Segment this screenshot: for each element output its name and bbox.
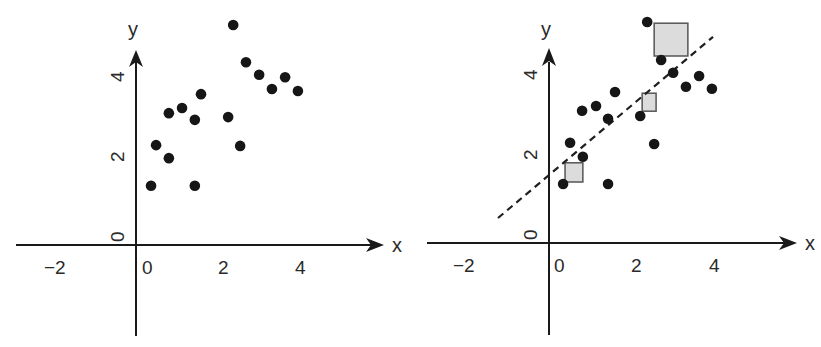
right-x-tick-2: 2 (631, 255, 642, 276)
data-point (228, 20, 239, 31)
residual-square-medium (642, 93, 656, 111)
left-y-tick-2: 2 (107, 151, 128, 162)
left-x-axis-label: x (392, 234, 402, 256)
data-point (649, 139, 660, 150)
left-y-tick-0: 0 (107, 231, 128, 242)
data-point (177, 103, 188, 114)
data-point (610, 87, 621, 98)
right-x-tick-neg2: −2 (453, 255, 475, 276)
data-point (164, 153, 175, 164)
data-point (558, 179, 569, 190)
left-x-tick-4: 4 (295, 257, 306, 278)
data-point (635, 111, 646, 122)
data-point (603, 114, 614, 125)
data-point (280, 72, 291, 83)
data-point (267, 84, 278, 95)
right-scatter-panel: x y −2 0 2 4 0 2 4 (427, 17, 815, 335)
data-point (707, 84, 718, 95)
data-point (254, 70, 265, 81)
residual-square-small (565, 163, 583, 182)
data-point (668, 68, 679, 79)
right-y-tick-4: 4 (520, 69, 541, 80)
left-x-tick-2: 2 (218, 257, 229, 278)
left-x-tick-0: 0 (142, 257, 153, 278)
data-point (603, 179, 614, 190)
data-point (565, 138, 576, 149)
data-point (293, 86, 304, 97)
right-x-tick-0: 0 (554, 255, 565, 276)
right-y-axis-label: y (541, 18, 551, 40)
left-data-points (146, 20, 303, 191)
left-y-axis-label: y (128, 18, 138, 40)
data-point (241, 57, 252, 68)
data-point (578, 152, 589, 163)
data-point (146, 181, 157, 192)
data-point (642, 17, 653, 28)
figure: x y −2 0 2 4 0 2 4 x y −2 0 2 4 0 2 4 (0, 0, 821, 347)
data-point (694, 71, 705, 82)
data-point (190, 115, 201, 126)
residual-square-large (654, 23, 688, 56)
data-point (164, 108, 175, 119)
left-x-tick-neg2: −2 (44, 257, 66, 278)
data-point (591, 101, 602, 112)
left-y-tick-4: 4 (107, 71, 128, 82)
data-point (190, 181, 201, 192)
right-x-tick-4: 4 (709, 255, 720, 276)
data-point (681, 82, 692, 93)
right-y-tick-2: 2 (520, 149, 541, 160)
right-x-axis-label: x (805, 232, 815, 254)
data-point (151, 140, 162, 151)
data-point (223, 112, 234, 123)
data-point (235, 141, 246, 152)
data-point (656, 55, 667, 66)
right-fit-line (498, 37, 713, 218)
right-y-tick-0: 0 (520, 229, 541, 240)
data-point (577, 106, 588, 117)
left-scatter-panel: x y −2 0 2 4 0 2 4 (16, 18, 402, 336)
data-point (196, 89, 207, 100)
